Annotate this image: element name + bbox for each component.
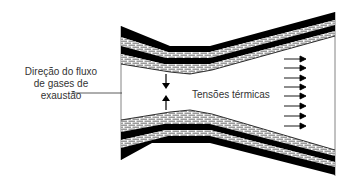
flow-direction-label: Direção do fluxo de gases de exaustão <box>2 66 120 102</box>
thermal-stress-label: Tensões térmicas <box>192 89 270 101</box>
upper-wall <box>121 12 335 74</box>
lower-wall <box>121 110 335 175</box>
flow-direction-label-line-1: Direção do fluxo <box>2 66 120 78</box>
outflow-arrows <box>284 56 306 129</box>
thermal-stress-arrow-down <box>162 74 170 89</box>
flow-direction-label-line-3: exaustão <box>2 90 120 102</box>
thermal-stress-arrow-up <box>162 95 170 110</box>
flow-direction-label-line-2: de gases de <box>2 78 120 90</box>
